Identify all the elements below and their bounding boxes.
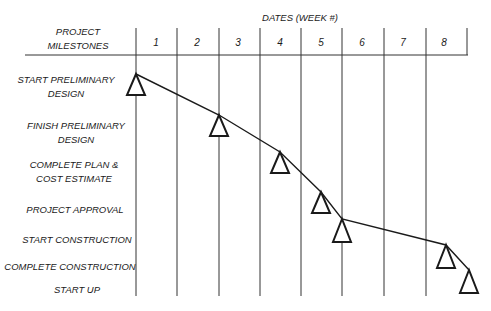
milestone-chart <box>0 0 491 311</box>
milestone-triangle-icon <box>271 152 289 173</box>
grid-lines <box>25 28 468 296</box>
milestone-triangle-icon <box>460 270 478 293</box>
milestone-path-line <box>136 74 469 270</box>
milestone-triangle-icon <box>312 192 330 213</box>
milestone-triangle-icon <box>437 245 455 268</box>
milestone-triangle-icon <box>333 219 351 242</box>
